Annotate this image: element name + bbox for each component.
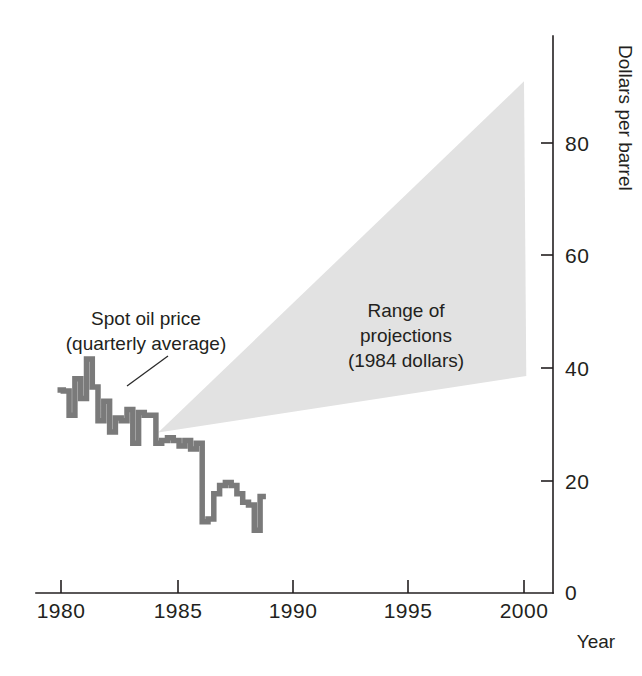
y-axis-title: Dollars per barrel <box>615 45 636 191</box>
projection-range-band <box>158 81 526 432</box>
projection-range-line-1: Range of <box>367 300 445 321</box>
projection-range-line-3: (1984 dollars) <box>348 350 464 371</box>
x-tick-label-1995: 1995 <box>384 599 433 622</box>
spot-price-leader-line <box>127 356 168 386</box>
y-tick-label-0: 0 <box>565 581 577 604</box>
x-tick-label-1980: 1980 <box>37 599 86 622</box>
y-tick-label-60: 60 <box>565 244 589 267</box>
spot-price-annotation-line-1: Spot oil price <box>91 308 201 329</box>
y-tick-label-40: 40 <box>565 357 589 380</box>
x-tick-label-2000: 2000 <box>500 599 549 622</box>
projection-range-line-2: projections <box>360 325 452 346</box>
y-tick-label-20: 20 <box>565 470 589 493</box>
chart-canvas: 1980 1985 1990 1995 2000 Year 0 20 40 60… <box>0 0 642 676</box>
x-tick-label-1985: 1985 <box>154 599 203 622</box>
x-axis-title: Year <box>577 631 616 652</box>
spot-price-annotation-line-2: (quarterly average) <box>66 333 227 354</box>
oil-price-chart: 1980 1985 1990 1995 2000 Year 0 20 40 60… <box>0 0 642 676</box>
x-tick-label-1990: 1990 <box>269 599 318 622</box>
y-tick-label-80: 80 <box>565 132 589 155</box>
